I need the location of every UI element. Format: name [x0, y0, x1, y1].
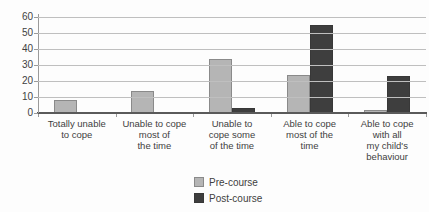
- x-axis-label-line: Able to cope: [348, 118, 426, 129]
- x-axis-label-line: most of: [116, 129, 194, 140]
- x-axis-label-2: Unable tocope someof the time: [193, 118, 271, 151]
- bar-chart-figure: Able to copewith allmy child'sbehaviourA…: [0, 0, 429, 212]
- x-axis-label-line: behaviour: [348, 151, 426, 162]
- x-axis-label-line: Able to cope: [271, 118, 349, 129]
- y-axis-label-30: 30: [0, 59, 33, 71]
- post-course-bar-3: [310, 25, 333, 113]
- y-axis-tick-0: [34, 113, 38, 114]
- y-axis-label-10: 10: [0, 91, 33, 103]
- y-axis-line: [38, 14, 39, 113]
- post-course-swatch: [194, 193, 204, 203]
- x-axis-label-line: cope some: [193, 129, 271, 140]
- x-axis-label-3: Able to copemost of thetime: [271, 118, 349, 151]
- y-axis-label-40: 40: [0, 43, 33, 55]
- x-axis-label-line: Unable to cope: [116, 118, 194, 129]
- pre-course-legend-label: Pre-course: [209, 177, 258, 188]
- y-axis-label-0: 0: [0, 107, 33, 119]
- pre-course-bar-2: [209, 59, 232, 113]
- x-axis-label-line: most of the: [271, 129, 349, 140]
- x-axis-label-line: with all: [348, 129, 426, 140]
- x-axis-label-1: Unable to copemost ofthe time: [116, 118, 194, 151]
- y-axis-label-50: 50: [0, 27, 33, 39]
- x-axis-line: [37, 112, 427, 114]
- pre-course-swatch: [194, 177, 204, 187]
- x-axis-label-line: of the time: [193, 140, 271, 151]
- gridline-10: [38, 97, 426, 98]
- x-axis-label-line: Unable to: [193, 118, 271, 129]
- x-axis-label-line: the time: [116, 140, 194, 151]
- x-axis-label-line: my child's: [348, 140, 426, 151]
- x-axis-label-0: Totally unableto cope: [38, 118, 116, 140]
- gridline-30: [38, 65, 426, 66]
- x-axis-label-line: Totally unable: [38, 118, 116, 129]
- x-axis-label-line: time: [271, 140, 349, 151]
- legend-item-post-course: Post-course: [194, 190, 262, 206]
- gridline-50: [38, 33, 426, 34]
- x-axis-label-line: to cope: [38, 129, 116, 140]
- x-axis-label-4: Able to copewith allmy child'sbehaviour: [348, 118, 426, 162]
- legend-item-pre-course: Pre-course: [194, 174, 262, 190]
- y-axis-label-20: 20: [0, 75, 33, 87]
- gridline-60: [38, 17, 426, 18]
- post-course-legend-label: Post-course: [209, 193, 262, 204]
- y-axis-label-60: 60: [0, 11, 33, 23]
- gridline-40: [38, 49, 426, 50]
- gridline-20: [38, 81, 426, 82]
- legend: Pre-course Post-course: [194, 174, 262, 206]
- pre-course-bar-1: [131, 91, 154, 113]
